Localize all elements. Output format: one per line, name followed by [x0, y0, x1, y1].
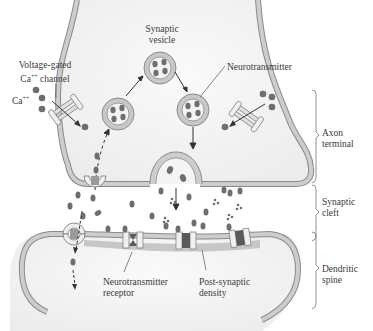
ca-text: Ca: [20, 74, 31, 84]
label-neurotransmitter: Neurotransmitter: [227, 62, 292, 73]
label-line: spine: [322, 275, 358, 286]
label-line: Axon: [322, 128, 354, 139]
degraded-neurotransmitters: [163, 198, 243, 224]
synaptic-vesicle-right: [177, 94, 209, 126]
label-line: vesicle: [138, 35, 186, 46]
label-line: Voltage-gated: [12, 60, 78, 71]
label-neurotransmitter-receptor: Neurotransmitter receptor: [103, 277, 168, 299]
superscript: ++: [23, 95, 30, 101]
synapse-diagram: [0, 0, 373, 331]
synaptic-vesicle-left: [102, 98, 134, 130]
label-line: cleft: [322, 208, 355, 219]
label-line: Post-synaptic: [199, 277, 250, 288]
label-region-axon-terminal: Axon terminal: [322, 128, 354, 150]
label-line: Neurotransmitter: [103, 277, 168, 288]
ca-ions-outside: [33, 87, 46, 113]
label-region-synaptic-cleft: Synaptic cleft: [322, 197, 355, 219]
label-voltage-gated-channel: Voltage-gated Ca++ channel: [12, 60, 78, 85]
label-region-dendritic-spine: Dendritic spine: [322, 264, 358, 286]
cleft-neurotransmitters: [68, 187, 243, 233]
channel-text: channel: [38, 74, 70, 84]
label-line: Dendritic: [322, 264, 358, 275]
ca-text: Ca: [12, 96, 23, 106]
label-line: Ca++ channel: [12, 71, 78, 85]
label-line: Synaptic: [322, 197, 355, 208]
label-ca-ion: Ca++: [12, 93, 29, 107]
region-brackets: [312, 90, 319, 309]
label-line: receptor: [103, 288, 168, 299]
label-line: Synaptic: [138, 24, 186, 35]
label-post-synaptic-density: Post-synaptic density: [199, 277, 250, 299]
neurotransmitter-receptor-2: [176, 226, 197, 250]
label-synaptic-vesicle: Synaptic vesicle: [138, 24, 186, 46]
superscript: ++: [31, 73, 38, 79]
neurotransmitter-receptor-1: [123, 226, 144, 249]
synaptic-vesicle-top: [144, 52, 176, 84]
label-line: terminal: [322, 139, 354, 150]
label-line: density: [199, 288, 250, 299]
